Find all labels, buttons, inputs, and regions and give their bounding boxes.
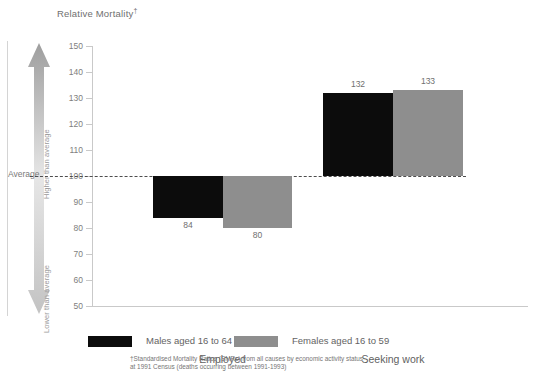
legend-swatch-female-icon bbox=[234, 336, 278, 347]
y-tick-label-110: 110 bbox=[69, 145, 83, 155]
y-tick-label-90: 90 bbox=[74, 197, 83, 207]
y-tick-label-50: 50 bbox=[74, 301, 83, 311]
y-tick-label-150: 150 bbox=[69, 41, 83, 51]
legend-swatch-male-icon bbox=[88, 336, 132, 347]
bar-seeking-female[interactable] bbox=[393, 90, 463, 176]
bar-employed-female[interactable] bbox=[223, 176, 292, 228]
chart-title-dagger: † bbox=[133, 7, 137, 14]
bar-value-employed-male: 84 bbox=[153, 220, 223, 230]
chart-page: Relative Mortality† Higher than average … bbox=[0, 0, 535, 374]
footnote-line-2: at 1991 Census (deaths occurring between… bbox=[130, 363, 363, 371]
footnote-line-1: †Standardised Mortality Ratios (SMRs) fr… bbox=[130, 355, 363, 363]
chart-title: Relative Mortality† bbox=[57, 7, 138, 19]
y-tick-label-70: 70 bbox=[74, 249, 83, 259]
legend: Males aged 16 to 64 Females aged 16 to 5… bbox=[0, 335, 535, 351]
bar-employed-male[interactable] bbox=[153, 176, 223, 218]
y-tick-label-140: 140 bbox=[69, 67, 83, 77]
bar-value-seeking-female: 133 bbox=[393, 76, 463, 86]
y-tick-label-60: 60 bbox=[74, 275, 83, 285]
legend-label-male: Males aged 16 to 64 bbox=[146, 335, 232, 346]
legend-label-female: Females aged 16 to 59 bbox=[292, 335, 389, 346]
y-tick-label-130: 130 bbox=[69, 93, 83, 103]
bar-value-employed-female: 80 bbox=[223, 230, 292, 240]
y-tick-label-80: 80 bbox=[74, 223, 83, 233]
bar-value-seeking-male: 132 bbox=[323, 79, 393, 89]
chart-title-text: Relative Mortality bbox=[57, 8, 133, 19]
bar-seeking-male[interactable] bbox=[323, 93, 393, 176]
x-axis-line bbox=[92, 306, 528, 307]
y-tick-label-120: 120 bbox=[69, 119, 83, 129]
footnote: †Standardised Mortality Ratios (SMRs) fr… bbox=[130, 355, 363, 372]
average-label: Average bbox=[8, 169, 40, 179]
legend-item-female[interactable]: Females aged 16 to 59 bbox=[234, 335, 394, 349]
legend-item-male[interactable]: Males aged 16 to 64 bbox=[88, 335, 238, 349]
lower-than-average-label: Lower than average bbox=[42, 265, 51, 333]
plot-area: 150 140 130 120 110 100 90 80 70 60 50 8… bbox=[92, 41, 528, 316]
higher-than-average-label: Higher than average bbox=[42, 129, 51, 199]
